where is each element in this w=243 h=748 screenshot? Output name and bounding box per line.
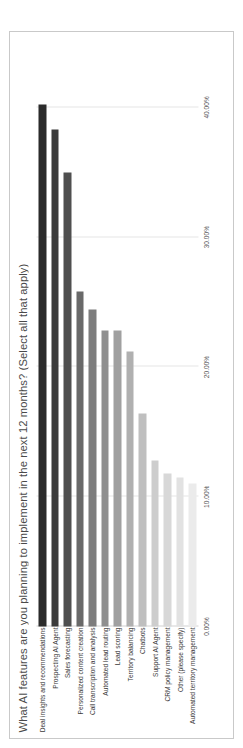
tick-label: 40.00% xyxy=(202,96,209,118)
bar[interactable] xyxy=(38,105,46,627)
category-label: Personalized content creation xyxy=(76,628,84,715)
bar-row xyxy=(101,43,109,627)
plot-area: Deal insights and recommendationsProspec… xyxy=(36,43,198,627)
bar[interactable] xyxy=(101,331,109,627)
category-label: CRM policy management xyxy=(163,628,171,702)
chart-card: What AI features are you planning to imp… xyxy=(9,31,234,739)
bar-row xyxy=(126,43,134,627)
category-label: Sales forecasting xyxy=(63,628,71,679)
chart-title: What AI features are you planning to imp… xyxy=(16,39,28,733)
tick-label: 20.00% xyxy=(202,356,209,378)
bar[interactable] xyxy=(113,331,121,627)
bar-row xyxy=(138,43,146,627)
rotated-chart-stage: What AI features are you planning to imp… xyxy=(10,33,233,739)
bar-row xyxy=(63,43,71,627)
bar[interactable] xyxy=(163,473,171,626)
bar[interactable] xyxy=(138,414,146,627)
category-label: Call transcription and analysis xyxy=(88,628,96,716)
bar-row xyxy=(51,43,59,627)
bar-row xyxy=(163,43,171,627)
category-label: Deal insights and recommendations xyxy=(38,628,46,733)
category-label: Chatbots xyxy=(138,628,146,654)
bar[interactable] xyxy=(51,129,59,626)
bar-row xyxy=(88,43,96,627)
bar[interactable] xyxy=(188,484,196,627)
category-label: Automated lead routing xyxy=(101,628,109,696)
category-label: Support AI Agent xyxy=(151,628,159,678)
bar[interactable] xyxy=(76,292,84,627)
category-label: Other (please specify) xyxy=(176,628,184,693)
bar-row xyxy=(176,43,184,627)
bar-row xyxy=(113,43,121,627)
category-label: Prospecting AI Agent xyxy=(51,628,59,689)
tick-label: 0.00% xyxy=(202,617,209,636)
bar-row xyxy=(188,43,196,627)
bar-row xyxy=(151,43,159,627)
category-label: Territory balancing xyxy=(126,628,134,682)
bar[interactable] xyxy=(151,460,159,626)
bar[interactable] xyxy=(63,172,71,626)
bar[interactable] xyxy=(126,351,134,626)
tick-label: 10.00% xyxy=(202,486,209,508)
bar[interactable] xyxy=(176,477,184,626)
tick-label: 30.00% xyxy=(202,226,209,248)
category-label: Automated territory management xyxy=(188,628,196,724)
bar-row xyxy=(38,43,46,627)
category-label: Lead scoring xyxy=(113,628,121,666)
bar-row xyxy=(76,43,84,627)
bar[interactable] xyxy=(88,310,96,627)
